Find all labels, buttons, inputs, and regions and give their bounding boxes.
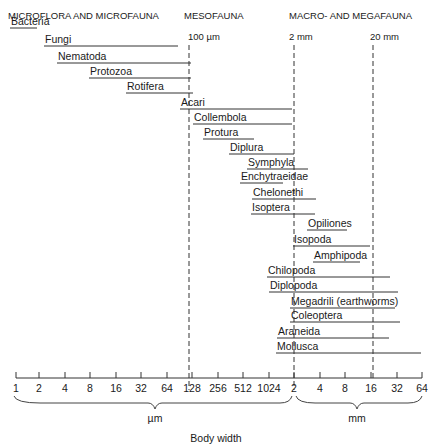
x-axis-ticks: 12481632641282565121024248163264 [13,372,428,394]
group-label: Chilopoda [268,264,315,276]
body-width-chart: MICROFLORA AND MICROFAUNA MESOFAUNA MACR… [0,0,439,447]
tick-label: 16 [110,382,122,394]
tick-label: 1024 [257,382,281,394]
unit-mm-label: mm [348,412,366,424]
group-label: Opiliones [308,217,352,229]
tick-label: 4 [317,382,323,394]
group-label: Chelonethi [253,186,303,198]
ref-label-20mm: 20 mm [370,31,399,42]
tick-label: 4 [62,382,68,394]
organism-groups: BacteriaFungiNematodaProtozoaRotiferaAca… [10,15,421,353]
tick-label: 8 [342,382,348,394]
group-label: Amphipoda [314,249,367,261]
ref-label-2mm: 2 mm [289,31,313,42]
header-mesofauna: MESOFAUNA [184,10,244,21]
group-label: Fungi [45,33,71,45]
tick-label: 64 [416,382,428,394]
header-macrofauna: MACRO- AND MEGAFAUNA [289,10,413,21]
group-label: Rotifera [127,80,164,92]
group-label: Diplura [230,141,263,153]
group-label: Bacteria [11,15,50,27]
tick-label: 32 [391,382,403,394]
tick-label: 128 [183,382,201,394]
group-label: Symphyla [248,156,294,168]
tick-label: 256 [209,382,227,394]
group-label: Acari [181,96,205,108]
group-label: Nematoda [58,50,107,62]
ref-label-100um: 100 µm [188,31,220,42]
unit-um-label: µm [148,412,163,424]
tick-label: 16 [365,382,377,394]
tick-label: 512 [234,382,252,394]
group-label: Megadrili (earthworms) [291,295,398,307]
tick-label: 1 [13,382,19,394]
group-label: Mollusca [277,340,319,352]
group-label: Protura [204,126,239,138]
tick-label: 2 [36,382,42,394]
um-brace [14,396,292,409]
tick-label: 64 [161,382,173,394]
tick-label: 2 [291,382,297,394]
group-label: Collembola [194,111,247,123]
group-label: Isoptera [252,201,290,213]
group-label: Enchytraeidae [241,170,308,182]
x-axis-title: Body width [190,432,242,444]
tick-label: 32 [135,382,147,394]
group-label: Araneida [278,325,320,337]
group-label: Protozoa [90,65,132,77]
group-label: Coleoptera [291,309,343,321]
tick-label: 8 [87,382,93,394]
mm-brace [296,396,422,409]
group-label: Diplopoda [270,279,317,291]
group-label: Isopoda [294,233,332,245]
